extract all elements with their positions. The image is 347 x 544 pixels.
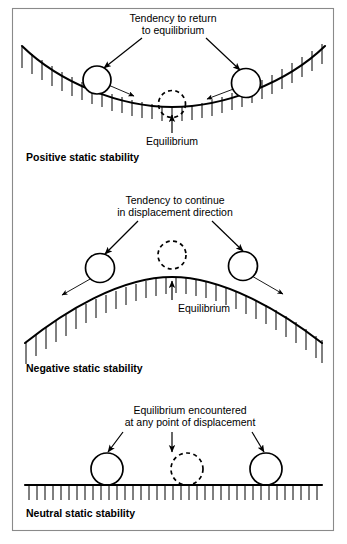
neutral-annotation-line-2: at any point of displacement [125, 416, 256, 428]
negative-annotation-line-1: Tendency to continue [125, 194, 224, 206]
positive-surface-hatching [22, 44, 322, 121]
neutral-caption: Neutral static stability [26, 507, 135, 519]
negative-ball-displaced-left [86, 254, 115, 283]
panel-positive-static-stability: Tendency to return to equilibrium Equili… [22, 12, 325, 163]
positive-annotation-line-2: to equilibrium [142, 24, 205, 36]
negative-ball-equilibrium [158, 241, 186, 269]
positive-leader-arrow-right [206, 38, 240, 70]
positive-annotation-line-1: Tendency to return [130, 12, 217, 24]
static-stability-figure: Tendency to return to equilibrium Equili… [0, 0, 347, 544]
neutral-ball-equilibrium [171, 453, 203, 485]
negative-ball-displaced-right [229, 252, 258, 281]
neutral-ball-displaced-left [91, 453, 123, 485]
negative-surface-curve [25, 277, 322, 343]
neutral-leader-arrow-left [108, 432, 123, 452]
positive-caption: Positive static stability [26, 151, 139, 163]
panel-neutral-static-stability: Equilibrium encountered at any point of … [25, 404, 322, 519]
neutral-leader-arrow-right [252, 432, 264, 452]
negative-annotation-line-2: in displacement direction [117, 206, 233, 218]
positive-leader-arrow-left [104, 38, 142, 68]
neutral-annotation-line-1: Equilibrium encountered [133, 404, 246, 416]
positive-ball-displaced-right [232, 69, 261, 98]
panel-negative-static-stability: Tendency to continue in displacement dir… [25, 194, 322, 374]
figure-border [13, 9, 334, 531]
neutral-surface-hatching [29, 486, 317, 500]
positive-ball-displaced-left [83, 66, 111, 94]
positive-surface-curve [22, 46, 325, 107]
figure-canvas: Tendency to return to equilibrium Equili… [0, 0, 347, 544]
negative-equilibrium-label: Equilibrium [178, 302, 230, 314]
negative-leader-arrow-right [212, 221, 243, 251]
negative-leader-arrow-left [105, 221, 138, 254]
neutral-ball-displaced-right [250, 453, 282, 485]
negative-caption: Negative static stability [26, 362, 143, 374]
positive-equilibrium-label: Equilibrium [146, 135, 198, 147]
